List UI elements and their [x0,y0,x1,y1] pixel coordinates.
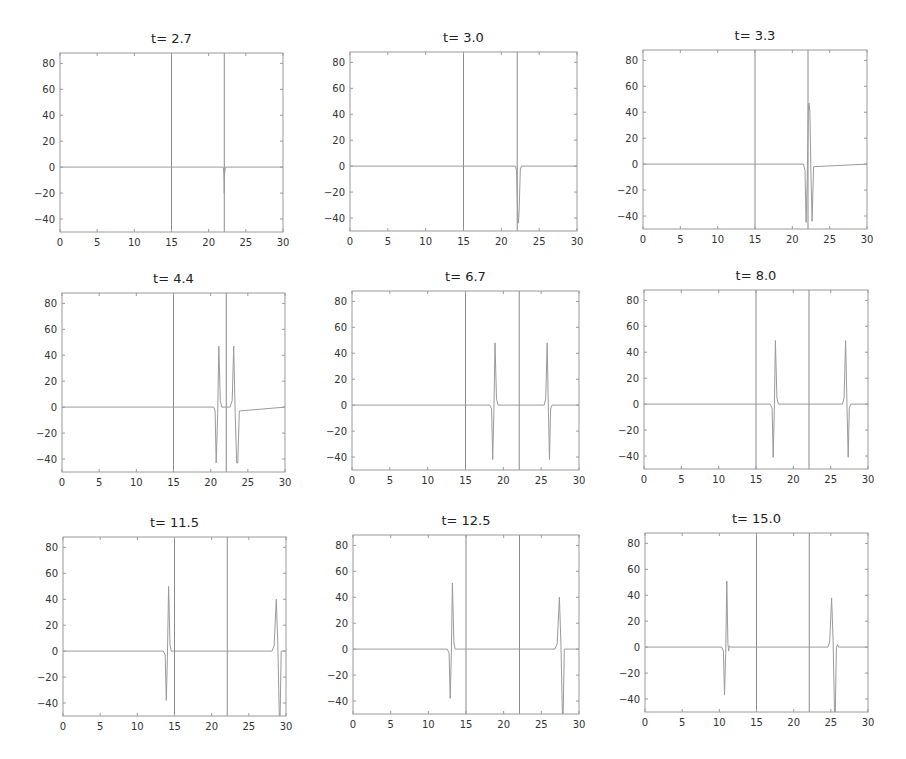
x-tick-label: 0 [350,719,356,730]
x-tick-label: 0 [349,475,355,486]
x-tick-label: 15 [750,474,763,485]
x-tick-label: 10 [131,721,144,732]
y-tick-label: 0 [634,642,640,653]
y-tick-label: 40 [45,594,58,605]
subplot-title: t= 8.0 [644,268,868,283]
x-tick-label: 10 [128,237,141,248]
x-tick-label: 0 [60,721,66,732]
x-tick-label: 0 [640,234,646,245]
x-tick-label: 5 [96,477,102,488]
y-tick-label: 40 [335,592,348,603]
subplot-title: t= 12.5 [353,513,579,528]
x-tick-label: 30 [571,236,584,247]
y-tick-label: −20 [326,426,347,437]
x-tick-label: 15 [165,237,178,248]
y-tick-label: 0 [52,646,58,657]
y-tick-label: 60 [334,322,347,333]
subplot-title: t= 3.3 [643,28,867,43]
y-tick-label: −40 [618,451,639,462]
x-tick-label: 25 [242,721,255,732]
y-tick-label: 40 [626,347,639,358]
subplot-axes: 051015202530−40−20020406080 [22,265,299,494]
x-tick-label: 10 [421,475,434,486]
y-tick-label: 80 [44,298,57,309]
x-tick-label: 30 [862,717,875,728]
y-tick-label: 80 [626,295,639,306]
subplot-title: t= 6.7 [352,269,579,284]
y-tick-label: 0 [633,399,639,410]
y-tick-label: 0 [632,159,638,170]
x-tick-label: 20 [497,719,510,730]
x-tick-label: 0 [57,237,63,248]
x-tick-label: 25 [824,717,837,728]
x-tick-label: 30 [861,234,874,245]
y-tick-label: 80 [625,55,638,66]
y-tick-label: 40 [42,110,55,121]
x-tick-label: 5 [679,717,685,728]
x-tick-label: 10 [711,234,724,245]
y-tick-label: −20 [619,668,640,679]
x-tick-label: 5 [385,236,391,247]
x-tick-label: 15 [168,721,181,732]
subplot-8: 051015202530−40−20020406080 t= 12.5 [313,507,593,736]
y-tick-label: 80 [334,296,347,307]
subplot-7: 051015202530−40−20020406080 t= 11.5 [23,509,300,738]
x-tick-label: 10 [130,477,143,488]
x-tick-label: 20 [495,236,508,247]
y-tick-label: 80 [332,57,345,68]
y-tick-label: 20 [627,616,640,627]
y-tick-label: 20 [335,618,348,629]
subplot-title: t= 11.5 [63,515,286,530]
y-tick-label: 20 [332,135,345,146]
y-tick-label: 20 [334,374,347,385]
subplot-title: t= 3.0 [350,30,577,45]
y-tick-label: 60 [627,564,640,575]
subplot-axes: 051015202530−40−20020406080 [312,263,593,492]
y-tick-label: 40 [625,107,638,118]
subplot-1: 051015202530−40−20020406080 t= 2.7 [20,25,297,254]
x-tick-label: 15 [460,719,473,730]
y-tick-label: 0 [341,400,347,411]
x-tick-label: 30 [573,719,586,730]
x-tick-label: 10 [712,474,725,485]
y-tick-label: 60 [42,84,55,95]
y-tick-label: 80 [45,542,58,553]
subplot-axes: 051015202530−40−20020406080 [605,505,882,734]
y-tick-label: 0 [342,644,348,655]
x-tick-label: 30 [862,474,875,485]
y-tick-label: −40 [324,213,345,224]
x-tick-label: 30 [280,721,293,732]
x-tick-label: 25 [533,236,546,247]
y-tick-label: −20 [37,672,58,683]
y-tick-label: 60 [335,566,348,577]
y-tick-label: 80 [627,538,640,549]
y-tick-label: −20 [34,188,55,199]
subplot-axes: 051015202530−40−20020406080 [20,25,297,254]
x-tick-label: 25 [535,475,548,486]
x-tick-label: 5 [97,721,103,732]
y-tick-label: 60 [625,81,638,92]
x-tick-label: 5 [678,474,684,485]
x-tick-label: 25 [824,474,837,485]
subplot-4: 051015202530−40−20020406080 t= 4.4 [22,265,299,494]
x-tick-label: 0 [347,236,353,247]
y-tick-label: 0 [339,161,345,172]
subplot-6: 051015202530−40−20020406080 t= 8.0 [604,262,882,491]
y-tick-label: 60 [332,83,345,94]
subplot-axes: 051015202530−40−20020406080 [313,507,593,736]
y-tick-label: 20 [44,376,57,387]
x-tick-label: 10 [422,719,435,730]
y-tick-label: 40 [627,590,640,601]
y-tick-label: 20 [42,136,55,147]
x-tick-label: 5 [94,237,100,248]
y-tick-label: 60 [45,568,58,579]
x-tick-label: 20 [786,234,799,245]
x-tick-label: 20 [787,717,800,728]
y-tick-label: 0 [49,162,55,173]
x-tick-label: 20 [497,475,510,486]
y-tick-label: −20 [36,428,57,439]
x-tick-label: 25 [239,237,252,248]
x-tick-label: 0 [641,474,647,485]
x-tick-label: 5 [387,475,393,486]
x-tick-label: 30 [573,475,586,486]
